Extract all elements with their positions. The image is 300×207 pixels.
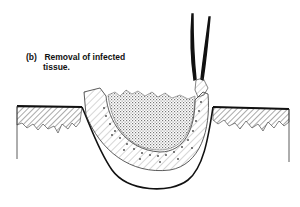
wound-debridement-diagram	[0, 0, 300, 207]
skin-surface-right	[213, 107, 289, 162]
skin-surface-left	[17, 106, 82, 159]
forceps-icon	[191, 14, 210, 97]
